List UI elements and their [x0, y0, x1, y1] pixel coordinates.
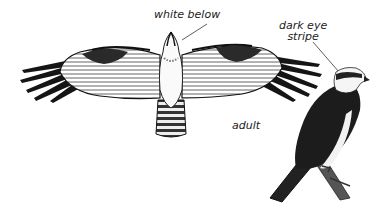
label-dark-eye-stripe: dark eye stripe: [279, 20, 327, 42]
eye-stripe-pointer: [313, 42, 339, 72]
flying-osprey: [20, 32, 322, 137]
label-white-below: white below: [154, 9, 220, 20]
body: [159, 32, 182, 108]
perched-body: [295, 84, 360, 169]
osprey-illustration: [0, 0, 390, 211]
perched-osprey: [270, 68, 370, 203]
perched-head: [334, 68, 366, 94]
label-adult: adult: [232, 120, 260, 131]
label-dark-eye-line2: stripe: [279, 31, 327, 42]
white-below-pointer: [182, 24, 207, 40]
